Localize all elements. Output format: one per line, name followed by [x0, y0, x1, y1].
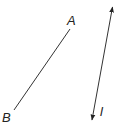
diagram-svg: A B l: [0, 0, 123, 131]
diagram-canvas: A B l: [0, 0, 123, 131]
segment-ab: [14, 29, 70, 110]
label-l: l: [100, 104, 104, 119]
label-a: A: [66, 13, 76, 28]
label-b: B: [2, 110, 11, 125]
